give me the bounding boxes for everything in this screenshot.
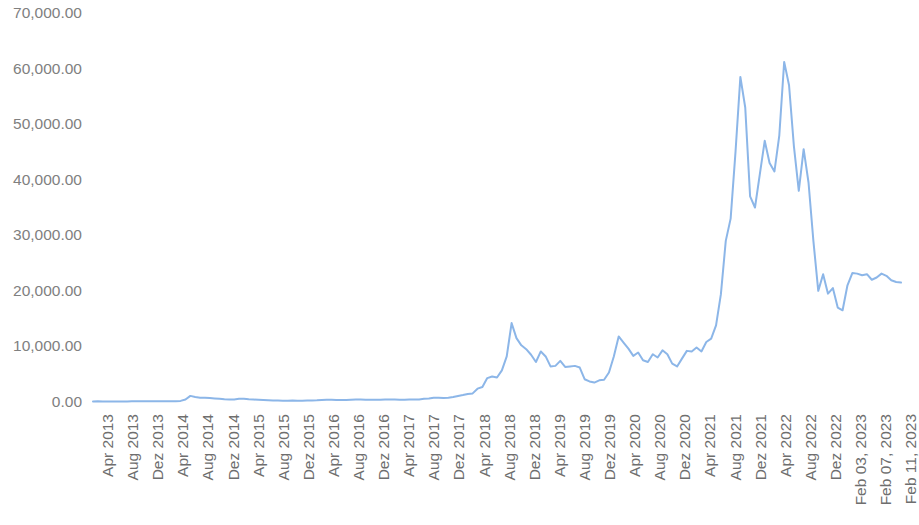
price-series-line [93, 62, 901, 402]
y-axis-tick-label: 10,000.00 [13, 339, 82, 355]
x-axis-tick-label: Dez 2022 [828, 414, 844, 480]
x-axis-tick-label: Dez 2017 [451, 414, 467, 480]
x-axis-tick-label: Aug 2021 [728, 414, 744, 480]
x-axis-tick-label: Aug 2018 [502, 414, 518, 480]
x-axis: Apr 2013Aug 2013Dez 2013Apr 2014Aug 2014… [88, 410, 906, 525]
x-axis-tick-label: Aug 2020 [652, 414, 668, 480]
x-axis-tick-label: Apr 2014 [175, 414, 191, 477]
x-axis-tick-label: Aug 2017 [426, 414, 442, 480]
x-axis-tick-label: Apr 2016 [326, 414, 342, 477]
y-axis: 0.0010,000.0020,000.0030,000.0040,000.00… [0, 0, 88, 410]
price-series-svg [88, 0, 906, 410]
x-axis-tick-label: Dez 2014 [226, 414, 242, 480]
x-axis-tick-label: Dez 2016 [376, 414, 392, 480]
x-axis-tick-label: Dez 2020 [677, 414, 693, 480]
x-axis-tick-label: Apr 2017 [401, 414, 417, 477]
y-axis-tick-label: 0.00 [52, 394, 82, 410]
x-axis-tick-label: Aug 2014 [200, 414, 216, 480]
x-axis-tick-label: Aug 2016 [351, 414, 367, 480]
y-axis-tick-label: 30,000.00 [13, 228, 82, 244]
y-axis-tick-label: 60,000.00 [13, 61, 82, 77]
x-axis-tick-label: Feb 07, 2023 [878, 414, 894, 505]
y-axis-tick-label: 70,000.00 [13, 5, 82, 21]
x-axis-tick-label: Dez 2019 [602, 414, 618, 480]
x-axis-tick-label: Feb 11, 2023 [903, 414, 919, 504]
plot-area [88, 0, 906, 410]
x-axis-tick-label: Aug 2022 [803, 414, 819, 480]
x-axis-tick-label: Feb 03, 2023 [853, 414, 869, 505]
x-axis-tick-label: Apr 2018 [477, 414, 493, 477]
x-axis-tick-label: Apr 2019 [552, 414, 568, 477]
x-axis-tick-label: Apr 2020 [627, 414, 643, 477]
x-axis-tick-label: Aug 2015 [276, 414, 292, 480]
y-axis-tick-label: 50,000.00 [13, 116, 82, 132]
x-axis-tick-label: Dez 2015 [301, 414, 317, 480]
x-axis-tick-label: Apr 2022 [778, 414, 794, 477]
x-axis-tick-label: Apr 2021 [702, 414, 718, 477]
x-axis-tick-label: Dez 2018 [527, 414, 543, 480]
y-axis-tick-label: 40,000.00 [13, 172, 82, 188]
y-axis-tick-label: 20,000.00 [13, 283, 82, 299]
x-axis-tick-label: Apr 2015 [251, 414, 267, 477]
x-axis-tick-label: Dez 2021 [753, 414, 769, 480]
x-axis-tick-label: Aug 2019 [577, 414, 593, 480]
x-axis-tick-label: Apr 2013 [100, 414, 116, 477]
x-axis-tick-label: Aug 2013 [125, 414, 141, 480]
x-axis-tick-label: Dez 2013 [150, 414, 166, 480]
